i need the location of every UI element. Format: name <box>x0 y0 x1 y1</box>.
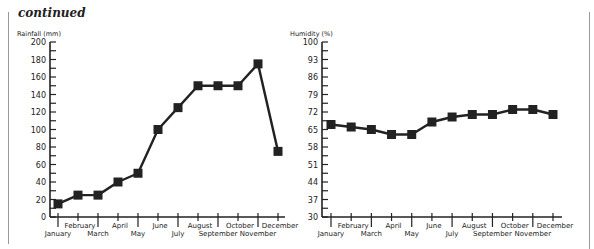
data-point-marker <box>194 81 203 90</box>
x-tick-label: April <box>112 222 128 230</box>
data-point-marker <box>154 125 163 134</box>
y-tick-label: 86 <box>308 73 318 82</box>
x-tick-label: February <box>64 222 95 230</box>
x-tick-label: August <box>188 222 213 230</box>
charts-canvas: Rainfall (mm)020406080100120140160180200… <box>0 0 594 249</box>
x-tick-label: December <box>537 222 573 230</box>
x-tick-label: January <box>317 230 345 238</box>
y-tick-label: 79 <box>308 91 318 100</box>
data-point-marker <box>448 113 457 122</box>
data-point-marker <box>508 105 517 114</box>
data-point-marker <box>367 125 376 134</box>
x-tick-label: June <box>425 222 441 230</box>
data-point-marker <box>549 110 558 119</box>
data-point-marker <box>427 118 436 127</box>
y-tick-label: 120 <box>31 108 46 117</box>
data-line <box>58 64 278 204</box>
x-tick-label: September <box>473 230 512 238</box>
data-point-marker <box>528 105 537 114</box>
data-point-marker <box>94 191 103 200</box>
x-tick-label: September <box>199 230 238 238</box>
y-tick-label: 65 <box>308 126 318 135</box>
data-point-marker <box>274 147 283 156</box>
data-point-marker <box>74 191 83 200</box>
x-tick-label: October <box>226 222 254 230</box>
data-line <box>331 110 553 135</box>
x-tick-label: November <box>515 230 552 238</box>
y-tick-label: 140 <box>31 91 46 100</box>
data-point-marker <box>134 169 143 178</box>
data-point-marker <box>488 110 497 119</box>
y-tick-label: 30 <box>308 213 318 222</box>
x-tick-label: July <box>445 230 459 238</box>
x-tick-label: July <box>171 230 185 238</box>
x-tick-label: May <box>131 230 145 238</box>
data-point-marker <box>114 178 123 187</box>
data-point-marker <box>254 59 263 68</box>
y-tick-label: 100 <box>31 126 46 135</box>
y-axis-title: Humidity (%) <box>290 30 333 38</box>
x-tick-label: August <box>462 222 487 230</box>
data-point-marker <box>468 110 477 119</box>
x-tick-label: February <box>338 222 369 230</box>
x-tick-label: June <box>151 222 167 230</box>
x-tick-label: March <box>87 230 108 238</box>
data-point-marker <box>347 123 356 132</box>
x-tick-label: October <box>501 222 529 230</box>
data-point-marker <box>234 81 243 90</box>
data-point-marker <box>407 130 416 139</box>
x-tick-label: November <box>240 230 277 238</box>
y-tick-label: 160 <box>31 73 46 82</box>
data-point-marker <box>214 81 223 90</box>
humidity-chart: Humidity (%)30374451586572798693100Janua… <box>290 30 573 238</box>
y-tick-label: 51 <box>308 161 318 170</box>
x-tick-label: March <box>361 230 382 238</box>
data-point-marker <box>387 130 396 139</box>
data-point-marker <box>174 103 183 112</box>
y-tick-label: 20 <box>36 196 46 205</box>
y-tick-label: 93 <box>308 56 318 65</box>
x-tick-label: December <box>262 222 298 230</box>
y-tick-label: 80 <box>36 143 46 152</box>
data-point-marker <box>54 199 63 208</box>
y-tick-label: 58 <box>308 143 318 152</box>
x-tick-label: April <box>386 222 402 230</box>
x-tick-label: May <box>404 230 418 238</box>
y-tick-label: 37 <box>308 196 318 205</box>
x-tick-label: January <box>44 230 72 238</box>
data-point-marker <box>327 120 336 129</box>
y-axis-title: Rainfall (mm) <box>17 30 61 38</box>
y-tick-label: 0 <box>41 213 46 222</box>
y-tick-label: 60 <box>36 161 46 170</box>
y-tick-label: 40 <box>36 178 46 187</box>
y-tick-label: 100 <box>303 38 318 47</box>
y-tick-label: 200 <box>31 38 46 47</box>
y-tick-label: 44 <box>308 178 318 187</box>
y-tick-label: 180 <box>31 56 46 65</box>
rainfall-chart: Rainfall (mm)020406080100120140160180200… <box>17 30 298 238</box>
y-tick-label: 72 <box>308 108 318 117</box>
